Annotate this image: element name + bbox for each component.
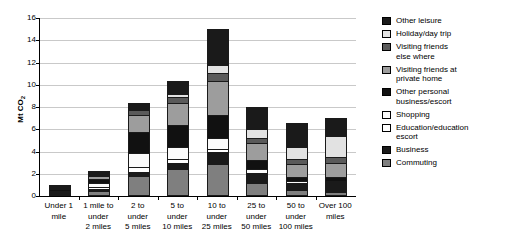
bar-segment (167, 125, 189, 147)
bar-segment (207, 138, 229, 149)
plot-area (39, 18, 356, 197)
legend-label-line: business/escort (396, 97, 452, 107)
y-tick-mark (36, 107, 39, 108)
x-tick-label-line: Over 100 (312, 201, 358, 212)
legend-item-4[interactable]: Visiting friends atprivate home (382, 65, 504, 84)
y-tick-label: 8 (14, 103, 36, 111)
y-tick-mark (36, 63, 39, 64)
legend-swatch-icon (382, 30, 391, 38)
bar-segment (325, 118, 347, 136)
bar-segment (325, 136, 347, 158)
gridline (40, 18, 356, 19)
legend-label-line: Visiting friends (396, 42, 448, 52)
legend-swatch-icon (382, 43, 391, 51)
y-tick-label: 6 (14, 125, 36, 133)
legend-item-label: Education/educationescort (396, 123, 469, 142)
legend-item-label: Other leisure (396, 16, 442, 26)
y-tick-mark (36, 18, 39, 19)
bar-segment (286, 190, 308, 196)
legend-swatch-icon (382, 146, 391, 154)
bar-segment (286, 147, 308, 159)
bar-segment (207, 65, 229, 73)
bar-segment (325, 192, 347, 196)
legend-label-line: Education/education (396, 123, 469, 133)
legend-label-line: Shopping (396, 110, 430, 120)
x-tick-mark (158, 196, 159, 200)
gridline (40, 107, 356, 108)
bar-segment (207, 73, 229, 81)
x-tick-mark (316, 196, 317, 200)
bar-segment (246, 129, 268, 137)
bar-segment (325, 163, 347, 176)
legend-item-1[interactable]: Other leisure (382, 16, 504, 26)
bar-segment (286, 184, 308, 191)
x-tick-mark (197, 196, 198, 200)
legend-item-label: Business (396, 145, 428, 155)
legend-item-3[interactable]: Visiting friendselse where (382, 42, 504, 61)
gridline (40, 152, 356, 153)
y-tick-label: 16 (14, 14, 36, 22)
gridline (40, 129, 356, 130)
y-tick-label: 2 (14, 170, 36, 178)
legend-swatch-icon (382, 159, 391, 167)
x-tick-label-line: miles (312, 212, 358, 223)
y-tick-label: 14 (14, 36, 36, 44)
bar-8 (325, 118, 347, 196)
legend-label-line: Other leisure (396, 16, 442, 26)
bar-segment (286, 164, 308, 177)
bar-segment (207, 164, 229, 196)
bar-1 (49, 185, 71, 196)
bar-2 (88, 171, 110, 196)
legend-item-7[interactable]: Education/educationescort (382, 123, 504, 142)
legend-label-line: private home (396, 74, 457, 84)
legend-item-label: Visiting friendselse where (396, 42, 448, 61)
bar-segment (246, 183, 268, 196)
y-tick-mark (36, 152, 39, 153)
legend-item-label: Commuting (396, 158, 437, 168)
y-tick-mark (36, 174, 39, 175)
bar-5 (207, 29, 229, 196)
bar-segment (325, 183, 347, 192)
gridline (40, 63, 356, 64)
bar-segment (49, 194, 71, 196)
legend-label-line: Business (396, 145, 428, 155)
legend-swatch-icon (382, 66, 391, 74)
bar-3 (128, 103, 150, 196)
y-tick-label: 0 (14, 192, 36, 200)
legend-item-6[interactable]: Shopping (382, 110, 504, 120)
legend-swatch-icon (382, 111, 391, 119)
legend-swatch-icon (382, 124, 391, 132)
legend-item-label: Holiday/day trip (396, 29, 451, 39)
gridline (40, 85, 356, 86)
bar-segment (207, 152, 229, 165)
legend-label-line: escort (396, 132, 469, 142)
bar-segment (207, 115, 229, 138)
stacked-bar-chart: Mt CO2 0246810121416 Under 1mile1 mile t… (0, 0, 505, 250)
y-tick-mark (36, 129, 39, 130)
bar-segment (128, 132, 150, 153)
legend-item-2[interactable]: Holiday/day trip (382, 29, 504, 39)
x-tick-mark (118, 196, 119, 200)
bar-segment (128, 176, 150, 196)
bar-segment (88, 191, 110, 196)
legend-item-label: Other personalbusiness/escort (396, 87, 452, 106)
y-tick-label: 12 (14, 59, 36, 67)
bar-6 (246, 107, 268, 196)
bar-7 (286, 123, 308, 196)
bar-segment (207, 29, 229, 65)
legend-label-line: else where (396, 52, 448, 62)
bar-segment (246, 107, 268, 129)
bar-segment (286, 123, 308, 147)
legend-item-9[interactable]: Commuting (382, 158, 504, 168)
bar-segment (167, 81, 189, 94)
y-tick-mark (36, 85, 39, 86)
bar-segment (246, 174, 268, 183)
legend-item-label: Visiting friends atprivate home (396, 65, 457, 84)
bar-segment (167, 147, 189, 159)
legend-item-8[interactable]: Business (382, 145, 504, 155)
legend-item-5[interactable]: Other personalbusiness/escort (382, 87, 504, 106)
y-tick-mark (36, 40, 39, 41)
legend-swatch-icon (382, 17, 391, 25)
x-tick-label-line: 100 miles (273, 222, 319, 233)
y-tick-label: 10 (14, 81, 36, 89)
